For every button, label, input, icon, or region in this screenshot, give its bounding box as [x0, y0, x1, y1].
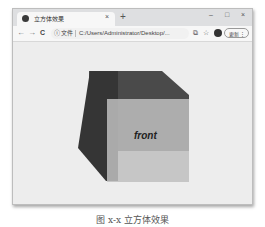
url-text[interactable]: C:/Users/Administrator/Desktop/...	[79, 28, 170, 39]
scheme-label: 文件	[61, 28, 73, 39]
maximize-button[interactable]: □	[225, 11, 229, 18]
back-button[interactable]: ←	[17, 28, 25, 37]
new-tab-button[interactable]: +	[120, 12, 126, 22]
tab-title: 立方体效果	[34, 14, 64, 23]
address-bar[interactable]: ⓘ 文件 C:/Users/Administrator/Desktop/...	[51, 28, 189, 39]
forward-button[interactable]: →	[28, 28, 36, 37]
reload-button[interactable]: C	[40, 29, 45, 36]
update-label: 更新	[229, 31, 239, 37]
figure-caption: 图 x-x 立方体效果	[0, 213, 265, 226]
info-icon[interactable]: ⓘ	[54, 28, 60, 39]
minimize-button[interactable]: –	[209, 11, 213, 18]
divider	[75, 30, 76, 37]
cube-front-label: front	[134, 130, 157, 141]
browser-tab[interactable]: 立方体效果 ×	[17, 12, 115, 26]
close-tab-icon[interactable]: ×	[105, 13, 109, 20]
menu-icon[interactable]: ⋮	[240, 29, 245, 39]
globe-icon	[22, 15, 29, 22]
close-window-button[interactable]: ×	[241, 11, 245, 18]
title-bar: 立方体效果 × + – □ ×	[13, 9, 252, 26]
profile-avatar[interactable]	[214, 29, 222, 37]
share-icon[interactable]: ⧉	[193, 29, 198, 37]
update-button[interactable]: 更新 ⋮	[224, 28, 249, 38]
browser-toolbar: ← → C ⓘ 文件 C:/Users/Administrator/Deskto…	[13, 26, 252, 42]
bookmark-star-icon[interactable]: ☆	[203, 29, 209, 37]
